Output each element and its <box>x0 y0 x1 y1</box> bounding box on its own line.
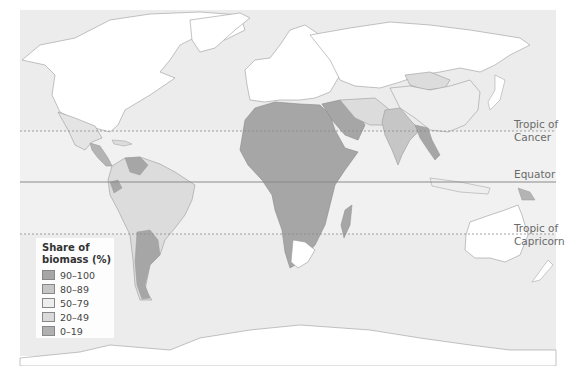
legend-swatch <box>42 298 55 308</box>
legend-item: 20–49 <box>42 310 114 324</box>
tropic-of-cancer-label-line1: Tropic of <box>514 118 558 131</box>
legend-label: 0–19 <box>60 326 83 337</box>
legend-swatch <box>42 270 55 280</box>
legend-label: 80–89 <box>60 284 89 295</box>
legend-title-line2: biomass (%) <box>42 254 114 266</box>
tropic-of-capricorn-label-line1: Tropic of <box>514 222 565 235</box>
legend-swatch <box>42 284 55 294</box>
tropic-of-cancer-label: Tropic of Cancer <box>514 118 558 144</box>
legend-item: 50–79 <box>42 296 114 310</box>
tropic-of-capricorn-label: Tropic of Capricorn <box>514 222 565 248</box>
legend-item: 80–89 <box>42 282 114 296</box>
legend-swatch <box>42 312 55 322</box>
legend-label: 20–49 <box>60 312 89 323</box>
equator-label-text: Equator <box>514 168 555 181</box>
tropic-of-capricorn-label-line2: Capricorn <box>514 235 565 248</box>
legend-label: 90–100 <box>60 270 95 281</box>
equator-label: Equator <box>514 168 555 181</box>
legend: Share of biomass (%) 90–100 80–89 50–79 … <box>36 238 114 338</box>
tropic-of-cancer-label-line2: Cancer <box>514 131 558 144</box>
legend-label: 50–79 <box>60 298 89 309</box>
legend-title-line1: Share of <box>42 242 114 254</box>
legend-item: 0–19 <box>42 324 114 338</box>
legend-title: Share of biomass (%) <box>42 242 114 266</box>
legend-item: 90–100 <box>42 268 114 282</box>
legend-swatch <box>42 326 55 336</box>
